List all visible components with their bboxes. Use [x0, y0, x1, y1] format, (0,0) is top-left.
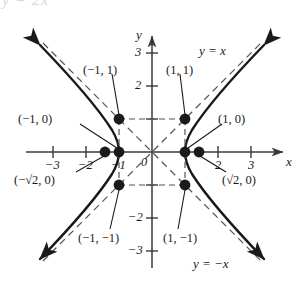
leader-1-neg1	[178, 190, 185, 229]
point-neg1-0[interactable]	[114, 147, 125, 158]
x-axis-label: x	[286, 155, 292, 168]
point-1-neg1[interactable]	[180, 180, 191, 191]
point-label-neg1-1: (−1, 1)	[83, 64, 117, 77]
y-tick-label-neg2: −2	[128, 211, 143, 224]
leader-neg1-1	[112, 74, 119, 115]
x-tick-label-neg2: −2	[78, 159, 93, 172]
point-label-1-0: (1, 0)	[218, 113, 245, 126]
leader-neg1-neg1	[110, 190, 119, 229]
point-1-0[interactable]	[180, 147, 191, 158]
x-tick-label-2: 2	[215, 159, 221, 172]
x-tick-label-neg3: −3	[45, 159, 60, 172]
point-label-1-neg1: (1, −1)	[163, 232, 197, 245]
y-axis-label: y	[136, 28, 142, 41]
leader-1-1	[180, 74, 185, 115]
x-tick-label-3: 3	[248, 159, 254, 172]
point-sqrt2-0[interactable]	[194, 147, 205, 158]
point-1-1[interactable]	[180, 114, 191, 125]
point-label-neg1-0: (−1, 0)	[18, 113, 52, 126]
asymptote-label-y-equals-negative-x: y = −x	[193, 257, 229, 270]
y-tick-label-2: 2	[135, 79, 141, 92]
point-label-sqrt2-0: (√2, 0)	[222, 174, 256, 187]
point-label-1-1: (1, 1)	[166, 64, 193, 77]
y-tick-label-neg3: −3	[128, 244, 143, 257]
x-tick-label-neg1: −1	[111, 159, 126, 172]
y-tick-label-3: 3	[135, 46, 141, 59]
point-neg-sqrt2-0[interactable]	[100, 147, 111, 158]
leader-sq2-0	[200, 156, 226, 172]
asymptote-label-y-equals-x: y = x	[199, 44, 226, 57]
origin-label: 0	[141, 156, 147, 169]
point-label-neg-sqrt2-0: (−√2, 0)	[14, 174, 55, 187]
point-label-neg1-neg1: (−1, −1)	[78, 232, 119, 245]
hyperbola-figure: y = 2x	[0, 0, 300, 288]
plot-canvas	[0, 0, 300, 288]
point-neg1-neg1[interactable]	[114, 180, 125, 191]
point-neg1-1[interactable]	[114, 114, 125, 125]
